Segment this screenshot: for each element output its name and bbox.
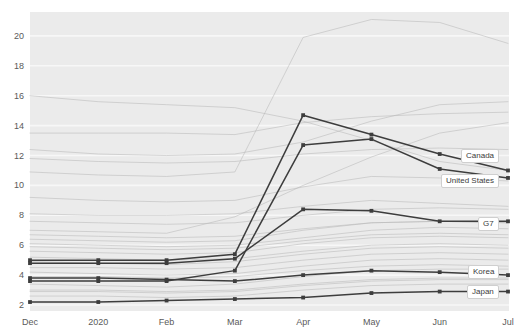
data-point-marker — [506, 176, 510, 180]
context-series-group — [30, 19, 508, 297]
data-point-marker — [233, 297, 237, 301]
data-point-marker — [370, 291, 374, 295]
y-tick-label: 2 — [2, 300, 24, 310]
data-point-marker — [506, 169, 510, 173]
y-tick-label: 4 — [2, 270, 24, 280]
y-tick-label: 20 — [2, 31, 24, 41]
x-tick-label: 2020 — [73, 317, 123, 327]
x-tick-label: Dec — [5, 317, 55, 327]
data-point-marker — [438, 270, 442, 274]
data-point-marker — [301, 207, 305, 211]
data-point-marker — [370, 209, 374, 213]
series-line-context-17 — [30, 284, 508, 297]
series-line-context-02 — [30, 112, 508, 134]
x-tick-label: Jul — [483, 317, 516, 327]
y-tick-label: 14 — [2, 121, 24, 131]
x-tick-label: Feb — [142, 317, 192, 327]
y-tick-label: 6 — [2, 240, 24, 250]
data-point-marker — [28, 276, 32, 280]
data-point-marker — [506, 290, 510, 294]
data-point-marker — [233, 269, 237, 273]
series-label-united-states[interactable]: United States — [441, 174, 499, 188]
data-point-marker — [301, 296, 305, 300]
y-tick-label: 16 — [2, 91, 24, 101]
data-point-marker — [438, 152, 442, 156]
y-tick-label: 18 — [2, 61, 24, 71]
data-point-marker — [506, 273, 510, 277]
y-tick-label: 10 — [2, 180, 24, 190]
data-point-marker — [301, 113, 305, 117]
series-line-canada — [30, 115, 508, 260]
data-point-marker — [233, 257, 237, 261]
data-point-marker — [438, 290, 442, 294]
data-point-marker — [301, 143, 305, 147]
data-point-marker — [370, 133, 374, 137]
data-point-marker — [233, 279, 237, 283]
y-tick-label: 12 — [2, 151, 24, 161]
data-point-marker — [96, 261, 100, 265]
x-tick-label: Apr — [278, 317, 328, 327]
data-point-marker — [96, 276, 100, 280]
data-point-marker — [165, 261, 169, 265]
data-point-marker — [96, 300, 100, 304]
x-tick-label: Jun — [415, 317, 465, 327]
plot-canvas — [0, 0, 516, 335]
data-point-marker — [438, 167, 442, 171]
data-point-marker — [165, 299, 169, 303]
series-label-japan[interactable]: Japan — [467, 285, 499, 299]
series-label-canada[interactable]: Canada — [461, 149, 499, 163]
data-point-marker — [370, 269, 374, 273]
data-point-marker — [370, 137, 374, 141]
x-tick-label: May — [346, 317, 396, 327]
x-tick-label: Mar — [210, 317, 260, 327]
y-tick-label: 8 — [2, 210, 24, 220]
data-point-marker — [233, 252, 237, 256]
data-point-marker — [28, 300, 32, 304]
series-line-context-18 — [30, 247, 508, 265]
line-chart: 2468101214161820 Dec2020FebMarAprMayJunJ… — [0, 0, 516, 335]
data-point-marker — [165, 278, 169, 282]
data-point-marker — [438, 219, 442, 223]
data-point-marker — [28, 261, 32, 265]
data-point-marker — [301, 273, 305, 277]
series-label-korea[interactable]: Korea — [468, 265, 499, 279]
series-label-g7[interactable]: G7 — [478, 217, 499, 231]
data-point-marker — [506, 219, 510, 223]
series-line-context-05 — [30, 176, 508, 201]
